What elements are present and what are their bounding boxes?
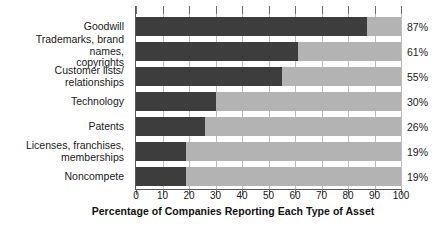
bar [136, 92, 216, 111]
bar-track [136, 167, 401, 186]
bar-rows [136, 14, 401, 189]
x-tick-label: 80 [342, 190, 353, 201]
value-label: 87% [407, 14, 436, 39]
bar [136, 167, 186, 186]
bar-row [136, 139, 401, 164]
bar-chart: GoodwillTrademarks, brand names, copyrig… [0, 0, 436, 226]
category-axis-labels: GoodwillTrademarks, brand names, copyrig… [0, 14, 130, 189]
value-label: 19% [407, 164, 436, 189]
bar-track [136, 67, 401, 86]
tick-mark [189, 6, 190, 14]
tick-mark [136, 6, 137, 14]
value-labels: 87%61%55%30%26%19%19% [407, 14, 436, 189]
value-label: 26% [407, 114, 436, 139]
bar-track [136, 92, 401, 111]
bar [136, 17, 367, 36]
category-label: Trademarks, brand names, copyrights [0, 39, 130, 64]
x-tick-label: 20 [183, 190, 194, 201]
bar [136, 67, 282, 86]
bar-row [136, 64, 401, 89]
bar-track [136, 42, 401, 61]
tick-mark [375, 6, 376, 14]
tick-mark [295, 6, 296, 14]
bar [136, 117, 205, 136]
x-tick-label: 70 [316, 190, 327, 201]
bar [136, 42, 298, 61]
tick-mark [216, 6, 217, 14]
value-label: 30% [407, 89, 436, 114]
value-label: 19% [407, 139, 436, 164]
x-tick-label: 50 [263, 190, 274, 201]
bar-row [136, 114, 401, 139]
category-label: Patents [0, 114, 130, 139]
x-axis-tick-labels: 0102030405060708090100 [136, 190, 401, 204]
x-tick-label: 40 [236, 190, 247, 201]
x-axis-title: Percentage of Companies Reporting Each T… [0, 205, 436, 217]
bar-row [136, 14, 401, 39]
category-label: Licenses, franchises, memberships [0, 139, 130, 164]
x-tick-label: 90 [369, 190, 380, 201]
top-tick-marks [136, 6, 401, 14]
bar [136, 142, 186, 161]
bar-row [136, 164, 401, 189]
category-label: Noncompete [0, 164, 130, 189]
tick-mark [269, 6, 270, 14]
bar-row [136, 39, 401, 64]
tick-mark [322, 6, 323, 14]
tick-mark [401, 6, 402, 14]
bar-track [136, 117, 401, 136]
value-label: 61% [407, 39, 436, 64]
category-label: Technology [0, 89, 130, 114]
x-tick-label: 30 [210, 190, 221, 201]
x-tick-label: 100 [393, 190, 410, 201]
bar-row [136, 89, 401, 114]
value-label: 55% [407, 64, 436, 89]
x-tick-label: 0 [133, 190, 139, 201]
tick-mark [163, 6, 164, 14]
tick-mark [348, 6, 349, 14]
tick-mark [242, 6, 243, 14]
gridline [401, 14, 402, 189]
x-tick-label: 60 [289, 190, 300, 201]
bar-track [136, 142, 401, 161]
x-tick-label: 10 [157, 190, 168, 201]
plot-area [136, 14, 401, 189]
bar-track [136, 17, 401, 36]
